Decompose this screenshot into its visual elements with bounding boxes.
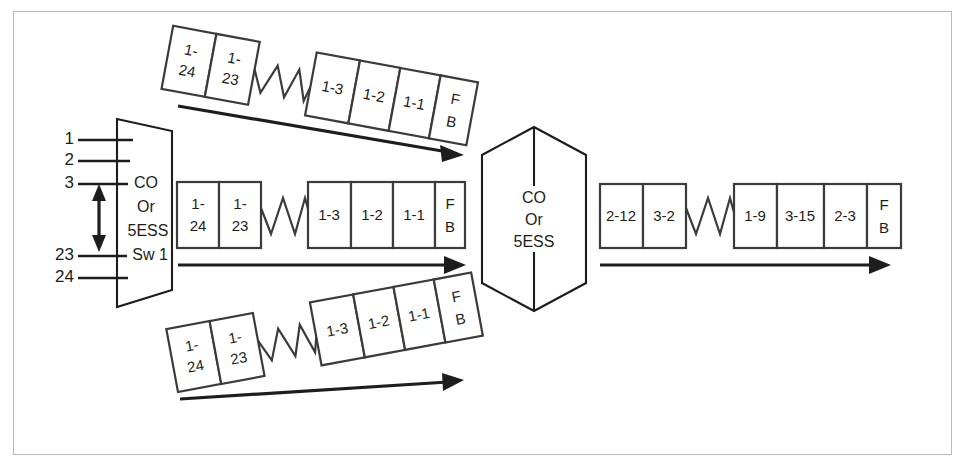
diagram-canvas: 1 2 3 23 24 CO Or 5ESS Sw 1 CO Or 5ES (0, 0, 961, 468)
center-node-line-1: CO (522, 189, 546, 206)
cell-text: F (445, 195, 454, 212)
left-node-line-4: Sw 1 (132, 246, 168, 263)
port-label-2: 2 (65, 150, 74, 169)
cell-text: 3-2 (653, 207, 675, 224)
cell-text: 1-1 (403, 206, 425, 223)
center-node-line-2: Or (525, 211, 543, 228)
table-cell (867, 184, 901, 248)
cell-text: 2-3 (834, 207, 856, 224)
cell-text: 3-15 (785, 207, 815, 224)
cell-text: B (445, 218, 455, 235)
cell-text: 1- (233, 195, 246, 212)
port-label-23: 23 (55, 245, 74, 264)
left-node-line-1: CO (134, 174, 158, 191)
cell-text: 1- (191, 195, 204, 212)
table-cell (177, 182, 219, 248)
cell-text: 1-2 (361, 206, 383, 223)
cell-text: 23 (232, 217, 249, 234)
cell-text: 1-9 (744, 207, 766, 224)
port-labels: 1 2 3 23 24 (55, 129, 74, 286)
cell-text: 23 (229, 348, 249, 368)
bottom-frame[interactable]: 1- 24 1- 23 1-3 1-2 1-1 F B (166, 273, 482, 392)
cell-text: B (879, 219, 889, 236)
top-frame[interactable]: 1- 24 1- 23 1-3 1-2 1-1 F B (162, 26, 478, 145)
cell-text: 24 (186, 356, 206, 376)
middle-frame[interactable]: 1- 24 1- 23 1-3 1-2 1-1 F B (177, 182, 465, 248)
center-node-line-3: 5ESS (514, 233, 555, 250)
center-node-co-5ess[interactable]: CO Or 5ESS (482, 127, 586, 311)
zigzag-separator-icon (257, 322, 319, 362)
cell-text: 23 (221, 69, 241, 89)
port-label-3: 3 (65, 173, 74, 192)
port-label-1: 1 (65, 129, 74, 148)
cell-text: 1-3 (318, 206, 340, 223)
left-node-line-2: Or (137, 198, 155, 215)
output-frame[interactable]: 2-12 3-2 1-9 3-15 2-3 F B (600, 184, 901, 248)
middle-frame-arrow-icon (178, 256, 466, 274)
port-range-arrow-icon (92, 184, 106, 252)
output-frame-arrow-icon (600, 256, 891, 274)
cell-text: 24 (190, 217, 207, 234)
cell-text: F (879, 196, 888, 213)
zigzag-separator-icon (251, 62, 313, 102)
port-leads (78, 140, 133, 278)
left-node-line-3: 5ESS (128, 222, 169, 239)
table-cell (435, 182, 465, 248)
port-label-24: 24 (55, 267, 74, 286)
table-cell (219, 182, 261, 248)
diagram-svg: 1 2 3 23 24 CO Or 5ESS Sw 1 CO Or 5ES (0, 0, 961, 468)
cell-text: 24 (177, 61, 197, 81)
cell-text: 2-12 (606, 207, 636, 224)
